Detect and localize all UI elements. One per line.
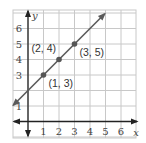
x-tick-label: 2 (56, 126, 62, 137)
data-points: (1, 3)(2, 4)(3, 5) (31, 41, 104, 89)
point-label: (3, 5) (80, 46, 105, 58)
y-tick-label: 5 (16, 39, 22, 50)
grid (13, 10, 136, 138)
x-tick-label: 6 (118, 126, 124, 137)
data-point (41, 72, 47, 78)
point-label: (2, 4) (31, 42, 56, 54)
x-tick-label: 4 (87, 126, 93, 137)
x-tick-label: 3 (71, 126, 77, 137)
data-point (56, 57, 62, 63)
x-tick-label: 5 (102, 126, 108, 137)
y-tick-label: 6 (16, 23, 22, 34)
y-tick-label: 4 (16, 54, 22, 65)
data-point (72, 41, 78, 47)
x-tick-label: 1 (40, 126, 46, 137)
x-axis-label: x (133, 127, 139, 138)
point-label: (1, 3) (49, 77, 74, 89)
coordinate-graph: 12345613456 (1, 3)(2, 4)(3, 5) x y (0, 0, 146, 143)
axes (14, 11, 137, 136)
y-axis-label: y (31, 10, 38, 21)
y-tick-label: 3 (16, 70, 22, 81)
